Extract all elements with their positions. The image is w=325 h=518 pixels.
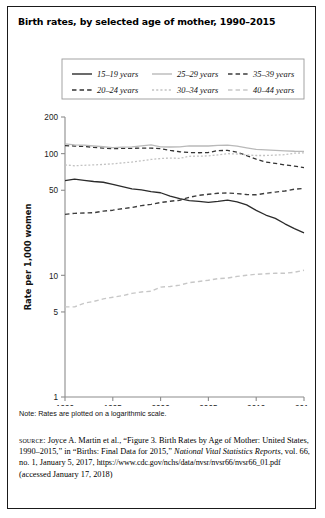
x-axis-tick-label: 2000	[151, 404, 170, 406]
y-axis-tick-label: 100	[44, 150, 58, 159]
chart-plot-area: 15–19 years25–29 years35–39 years20–24 y…	[16, 41, 308, 406]
figure-frame: Birth rates, by selected age of mother, …	[7, 6, 316, 509]
y-axis-tick-label: 50	[49, 186, 59, 195]
birth-rates-line-chart: 15–19 years25–29 years35–39 years20–24 y…	[16, 41, 308, 406]
series-line	[65, 188, 304, 214]
legend-label: 30–34 years	[176, 86, 218, 95]
source-accessed: (accessed January 17, 2018)	[19, 470, 113, 479]
x-axis-tick-label: 2010	[247, 404, 266, 406]
chart-series	[65, 144, 304, 307]
y-axis-tick-label: 10	[49, 272, 59, 281]
source-line-1: Joyce A. Martin et al., “Figure 3. Birth…	[46, 436, 232, 445]
source-url: https://www.cdc.gov/nchs/data/nvsr/nvsr6…	[97, 458, 281, 467]
legend-label: 15–19 years	[97, 70, 138, 79]
legend-label: 20–24 years	[97, 86, 138, 95]
legend-label: 35–39 years	[252, 70, 294, 79]
y-axis-title-text: Rate per 1,000 women	[23, 204, 33, 311]
x-axis-tick-label: 2015	[295, 404, 308, 406]
series-line	[65, 270, 304, 307]
legend-label: 25–29 years	[177, 70, 218, 79]
chart-note: Note: Rates are plotted on a logarithmic…	[19, 409, 309, 418]
source-label: source:	[19, 436, 46, 445]
y-axis-tick-label: 200	[44, 113, 58, 122]
y-axis-tick-label: 5	[53, 308, 58, 317]
chart-axes: 200100501051199019952000200520102015	[44, 113, 308, 406]
chart-legend: 15–19 years25–29 years35–39 years20–24 y…	[62, 59, 304, 99]
y-axis-title: Rate per 1,000 women	[23, 204, 33, 311]
x-axis-tick-label: 2005	[199, 404, 218, 406]
source-citation: source: Joyce A. Martin et al., “Figure …	[19, 435, 311, 480]
series-line	[65, 153, 304, 166]
x-axis-tick-label: 1995	[104, 404, 123, 406]
y-axis-tick-label: 1	[53, 393, 58, 402]
series-line	[65, 179, 304, 233]
page-title: Birth rates, by selected age of mother, …	[18, 16, 308, 27]
x-axis-tick-label: 1990	[56, 404, 75, 406]
source-journal: National Vital Statistics Reports	[174, 447, 281, 456]
legend-label: 40–44 years	[253, 86, 294, 95]
